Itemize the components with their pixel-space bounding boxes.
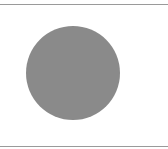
gray-circle (26, 26, 120, 120)
top-border-line (0, 4, 168, 5)
bottom-border-line (0, 146, 168, 147)
